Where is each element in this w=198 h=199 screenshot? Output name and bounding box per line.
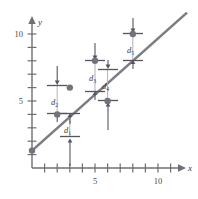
- d1-label-sub: 1: [68, 130, 71, 136]
- d5-label-sub: 5: [131, 50, 134, 56]
- data-point-2: [67, 84, 73, 90]
- d4-arrow-head-top: [106, 65, 111, 70]
- data-point-1: [54, 111, 60, 117]
- regression-line: [32, 13, 187, 151]
- figure-canvas: 5 10 5 10 x y: [0, 0, 198, 199]
- d4-label-sub: 4: [106, 86, 109, 92]
- scatter-plot-svg: 5 10 5 10 x y: [0, 0, 198, 199]
- axes-group: [28, 16, 186, 172]
- y-axis-arrowhead: [28, 16, 35, 24]
- x-tick-label-10: 10: [154, 176, 163, 186]
- data-point-5: [130, 31, 136, 37]
- x-axis-arrowhead: [178, 164, 186, 171]
- d2-arrow-head-top: [55, 81, 60, 86]
- data-point-4: [104, 98, 110, 104]
- d2-label-sub: 2: [55, 102, 58, 108]
- data-points-group: [29, 31, 136, 154]
- d1-arrow-head-down: [68, 139, 73, 143]
- y-tick-label-10: 10: [15, 29, 24, 39]
- x-axis-label: x: [187, 163, 192, 173]
- y-axis-label: y: [37, 17, 42, 27]
- x-tick-label-5: 5: [93, 176, 97, 186]
- residual-annotation-d1: d1: [60, 113, 80, 166]
- data-point-3: [92, 58, 98, 64]
- y-tick-label-5: 5: [19, 96, 23, 106]
- data-point-origin-marker: [29, 147, 35, 153]
- d3-label-sub: 3: [93, 78, 96, 84]
